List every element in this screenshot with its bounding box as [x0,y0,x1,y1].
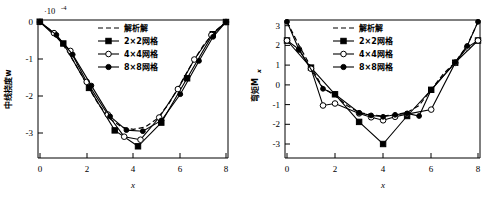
left-multiplier-base: ·10 [44,6,55,16]
left-y-ticks: 0 -1 -2 -3 [26,17,44,138]
legend-label-4x4: 4×4网格 [124,49,159,59]
left-xtick-0: 0 [38,164,43,174]
left-ytick-3: -3 [26,128,34,138]
legend-swatch-2x2-marker-right [341,38,346,43]
right-xtick-4: 4 [381,164,386,174]
chart-panel-left: 0 -1 -2 -3 0 2 4 6 8 ·10 -4 [0,0,245,197]
legend-label-4x4-right: 4×4网格 [359,49,394,59]
left-axis-multiplier: ·10 -4 [44,4,67,16]
right-xtick-8: 8 [476,164,481,174]
left-yaxis-label: 中线挠度w [3,69,13,109]
left-multiplier-exponent: -4 [61,4,67,11]
legend-label-2x2-right: 2×2网格 [359,36,394,46]
right-ytick-neg2: -2 [273,119,281,129]
chart-panel-right: 3 2 1 0 -1 -2 -3 0 2 4 6 8 [245,0,490,197]
left-ytick-2: -2 [26,91,34,101]
left-xtick-2: 2 [85,164,90,174]
legend-swatch-4x4-marker-right [341,51,347,57]
legend-label-8x8: 8×8网格 [124,62,159,72]
left-ytick-0: 0 [29,17,34,27]
left-xtick-6: 6 [178,164,183,174]
right-ytick-neg1: -1 [273,100,281,110]
legend-swatch-2x2-marker [106,38,111,43]
right-ytick-3: 3 [276,21,281,31]
right-ytick-1: 1 [276,60,281,70]
right-xtick-2: 2 [333,164,338,174]
right-panel-svg: 3 2 1 0 -1 -2 -3 0 2 4 6 8 [245,0,490,197]
legend-swatch-8x8-marker [106,64,111,69]
legend-label-analytical: 解析解 [124,23,148,33]
left-x-ticks: 0 2 4 6 8 [38,153,229,174]
right-xtick-6: 6 [429,164,434,174]
right-yaxis-label: 弯矩M [250,78,260,102]
right-yaxis-label-subscript: x [255,68,262,74]
figure-container: 0 -1 -2 -3 0 2 4 6 8 ·10 -4 [0,0,490,197]
right-ytick-neg3: -3 [273,139,281,149]
legend-swatch-4x4-marker [106,51,112,57]
legend-label-analytical-right: 解析解 [359,23,383,33]
right-xaxis-label: x [380,180,385,190]
legend-swatch-8x8-marker-right [341,64,346,69]
legend-label-8x8-right: 8×8网格 [359,62,394,72]
legend-label-2x2: 2×2网格 [124,36,159,46]
left-ytick-1: -1 [26,54,34,64]
left-xaxis-label: x [130,180,135,190]
left-xtick-4: 4 [131,164,136,174]
right-xtick-0: 0 [285,164,290,174]
left-xtick-8: 8 [224,164,229,174]
right-legend: 解析解 2×2网格 4×4网格 8×8网格 [333,23,394,72]
left-panel-svg: 0 -1 -2 -3 0 2 4 6 8 ·10 -4 [0,0,245,197]
right-ytick-2: 2 [276,40,281,50]
right-x-ticks: 0 2 4 6 8 [285,153,481,174]
left-legend: 解析解 2×2网格 4×4网格 8×8网格 [98,23,159,72]
right-yaxis-label-group: 弯矩M x [250,68,262,102]
right-ytick-0: 0 [276,80,281,90]
